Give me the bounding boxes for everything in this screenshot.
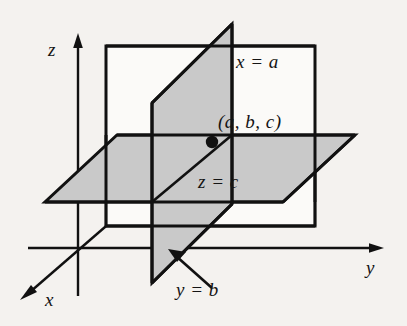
plane-label-x-equals-a: x = a xyxy=(236,52,279,71)
y-axis-arrowhead xyxy=(369,243,384,253)
z-axis-arrowhead xyxy=(73,33,83,48)
point-label-abc: (a, b, c) xyxy=(218,112,282,131)
axis-label-x: x xyxy=(45,290,54,309)
diagram-canvas xyxy=(0,0,407,326)
plane-label-z-equals-c: z = c xyxy=(198,172,239,191)
point-abc-marker xyxy=(206,136,218,148)
plane-label-y-equals-b: y = b xyxy=(176,280,219,299)
axis-label-z: z xyxy=(48,40,56,59)
figure-3d-coordinate-planes: z x y x = a z = c y = b (a, b, c) xyxy=(0,0,407,326)
axis-label-y: y xyxy=(366,258,375,277)
